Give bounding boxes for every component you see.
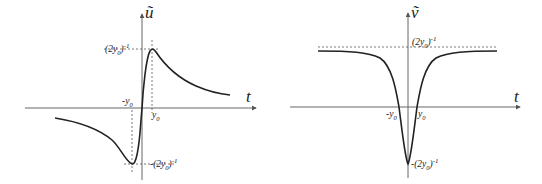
left-plot	[25, 14, 256, 180]
right-t-axis-label: t	[514, 88, 519, 105]
right-min-label: -(2y0)-1	[411, 158, 439, 172]
figure-canvas	[0, 0, 542, 184]
right-v-axis-label: ṽ	[411, 4, 419, 21]
right-max-label: (2y0)-1	[412, 36, 436, 50]
left-guide-lines	[104, 40, 176, 172]
left-t-axis-label: t	[246, 88, 251, 105]
left-neg-y0-label: -y0	[122, 97, 133, 108]
left-pos-y0-label: y0	[152, 111, 159, 122]
left-u-axis-label: ũ	[145, 4, 154, 21]
left-max-label: (2y0)-1	[105, 43, 129, 57]
right-pos-y0-label: y0	[418, 110, 425, 121]
right-plot	[290, 13, 520, 178]
right-neg-y0-label: -y0	[386, 110, 397, 121]
left-min-label: -(2y0)-1	[150, 158, 178, 172]
